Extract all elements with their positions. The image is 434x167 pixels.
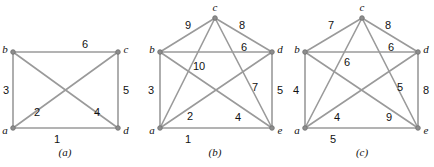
graph-node-c [360, 16, 365, 21]
edge-weight-cd: 8 [385, 20, 391, 31]
panel-caption-c: (c) [356, 147, 368, 158]
edge-weight-ac: 6 [344, 57, 350, 68]
edge-weight-ae: 5 [330, 134, 336, 145]
graph-node-d [416, 50, 421, 55]
edge-weight-de: 8 [423, 85, 429, 96]
vertex-label-d: d [423, 44, 429, 55]
graph-panel-c: abcde5449865876(c) [0, 0, 434, 167]
vertex-label-c: c [360, 2, 365, 13]
vertex-label-a: a [294, 125, 300, 136]
graph-edges-c [0, 0, 434, 167]
edge-weight-be: 9 [386, 112, 392, 123]
vertex-label-e: e [424, 125, 429, 136]
edge-weight-ab: 4 [293, 85, 299, 96]
graph-node-b [303, 50, 308, 55]
edge-weight-bd: 6 [388, 42, 394, 53]
edge-weight-ad: 4 [334, 112, 340, 123]
vertex-label-b: b [294, 44, 300, 55]
graph-figure: abcd123456(a)abcde12345678910(b)abcde544… [0, 0, 434, 167]
graph-node-e [416, 126, 421, 131]
edge-weight-bc: 7 [328, 20, 334, 31]
edge-weight-ce: 5 [397, 82, 403, 93]
graph-node-a [303, 126, 308, 131]
